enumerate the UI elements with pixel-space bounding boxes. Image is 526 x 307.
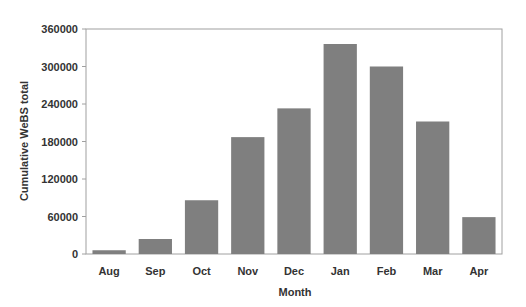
x-axis-title: Month [279,286,312,298]
x-tick-label: Oct [192,265,211,277]
x-tick-label: Mar [423,265,443,277]
x-tick-label: Aug [98,265,119,277]
x-tick-label: Feb [377,265,397,277]
bar-mar [416,122,449,255]
bar-aug [92,250,125,254]
y-tick-label: 360000 [41,23,78,35]
x-tick-label: Jan [331,265,350,277]
x-tick-label: Dec [284,265,304,277]
bar-sep [139,239,172,254]
y-tick-label: 60000 [47,211,78,223]
x-tick-label: Sep [145,265,165,277]
y-tick-label: 0 [72,248,78,260]
y-axis-title: Cumulative WeBS total [18,81,30,201]
x-axis-ticks: AugSepOctNovDecJanFebMarApr [98,265,489,277]
x-tick-label: Apr [469,265,489,277]
bar-dec [277,108,310,254]
bar-oct [185,200,218,254]
y-tick-label: 120000 [41,173,78,185]
bar-feb [370,67,403,255]
y-tick-label: 300000 [41,61,78,73]
y-tick-label: 240000 [41,98,78,110]
bar-apr [462,217,495,254]
bars [92,44,495,254]
bar-nov [231,137,264,254]
x-tick-label: Nov [237,265,259,277]
y-axis-ticks: 060000120000180000240000300000360000 [41,23,86,260]
y-tick-label: 180000 [41,136,78,148]
bar-jan [324,44,357,254]
bar-chart: Cumulative WeBS total 060000120000180000… [0,0,526,307]
